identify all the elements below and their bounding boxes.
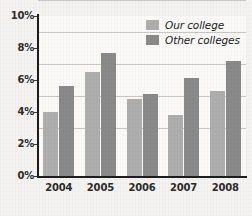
y-axis-line <box>37 14 39 178</box>
x-axis-tick-label: 2008 <box>204 182 246 193</box>
bar-2008-our-college <box>210 91 225 176</box>
legend-label-other-colleges: Other colleges <box>165 34 240 46</box>
legend-item-our-college: Our college <box>146 18 240 32</box>
gridline <box>38 0 246 1</box>
bar-2005-our-college <box>85 72 100 176</box>
legend-swatch-other-colleges <box>146 35 159 45</box>
x-axis-tick-label: 2007 <box>163 182 205 193</box>
y-axis-tick-label: 10% <box>0 10 34 21</box>
gridline <box>38 64 246 65</box>
bar-2006-our-college <box>127 99 142 176</box>
x-axis-tick-label: 2006 <box>121 182 163 193</box>
bar-2004-our-college <box>43 112 58 176</box>
y-axis-tick-label: 0% <box>0 170 34 181</box>
bar-2005-other-colleges <box>101 53 116 176</box>
chart-legend: Our college Other colleges <box>146 18 240 48</box>
x-axis-line <box>37 176 247 178</box>
bar-chart: 0%2%4%6%8%10% 20042005200620072008 Our c… <box>0 0 252 216</box>
legend-swatch-our-college <box>146 20 159 30</box>
legend-label-our-college: Our college <box>165 19 224 31</box>
y-axis-tick-label: 6% <box>0 74 34 85</box>
bar-2006-other-colleges <box>143 94 158 176</box>
bar-2007-our-college <box>168 115 183 176</box>
y-axis-tick-label: 4% <box>0 106 34 117</box>
x-axis-tick-label: 2005 <box>79 182 121 193</box>
bar-2004-other-colleges <box>59 86 74 176</box>
x-axis-tick-label: 2004 <box>38 182 80 193</box>
y-axis-tick-label: 8% <box>0 42 34 53</box>
bar-2008-other-colleges <box>226 61 241 176</box>
y-axis-tick-label: 2% <box>0 138 34 149</box>
legend-item-other-colleges: Other colleges <box>146 33 240 47</box>
bar-2007-other-colleges <box>184 78 199 176</box>
